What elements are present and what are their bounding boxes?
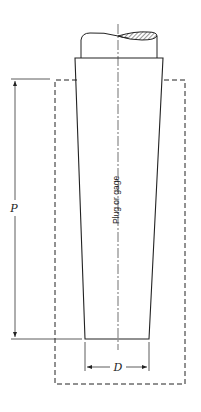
part-label: Plug or gage xyxy=(111,176,121,224)
d-label: D xyxy=(113,361,123,374)
hole-outline xyxy=(55,80,185,384)
plug-gage-diagram: P D Plug or gage xyxy=(0,0,201,412)
plug-shaft xyxy=(81,32,157,58)
diagram-canvas: P D Plug or gage xyxy=(0,0,201,412)
p-label: P xyxy=(9,202,18,215)
section-hatch xyxy=(118,32,157,40)
p-dimension xyxy=(11,79,82,339)
